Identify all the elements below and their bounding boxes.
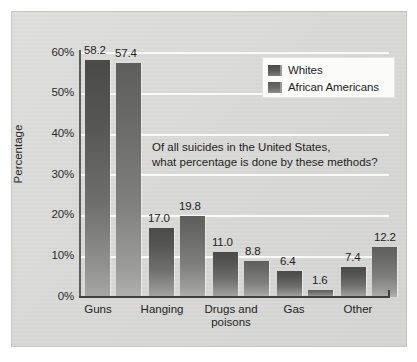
value-african-americans-hanging: 19.8 — [179, 200, 201, 212]
y-tick-50: 50% — [30, 86, 74, 98]
legend: Whites African Americans — [262, 57, 395, 98]
y-axis-tick-labels: 60% 50% 40% 30% 20% 10% 0% — [20, 0, 74, 362]
category-label-gas: Gas — [264, 303, 324, 316]
value-african-americans-drugs: 8.8 — [245, 245, 260, 257]
y-tick-20: 20% — [30, 208, 74, 220]
legend-label-whites: Whites — [288, 64, 323, 76]
legend-item-african-americans[interactable]: African Americans — [268, 79, 389, 95]
bar-african-americans-other[interactable] — [372, 247, 397, 297]
bar-whites-guns[interactable] — [85, 60, 110, 297]
value-african-americans-gas: 1.6 — [312, 274, 327, 286]
category-label-drugs-and-poisons: Drugs and poisons — [191, 303, 271, 329]
legend-swatch-african-americans — [268, 82, 282, 93]
x-axis-end-cap — [388, 290, 390, 297]
bar-whites-other[interactable] — [341, 267, 366, 297]
category-label-hanging: Hanging — [132, 303, 192, 316]
chart-annotation: Of all suicides in the United States, wh… — [152, 140, 392, 169]
legend-label-african-americans: African Americans — [288, 81, 379, 93]
legend-item-whites[interactable]: Whites — [268, 62, 389, 78]
x-axis-line — [79, 296, 390, 298]
category-label-guns: Guns — [68, 303, 128, 316]
bar-whites-gas[interactable] — [277, 271, 302, 297]
y-tick-40: 40% — [30, 127, 74, 139]
y-axis-label: Percentage — [12, 109, 24, 199]
value-whites-gas: 6.4 — [280, 255, 295, 267]
y-tick-30: 30% — [30, 168, 74, 180]
legend-swatch-whites — [268, 65, 282, 76]
chart-figure: 60% 50% 40% 30% 20% 10% 0% Percentage 58… — [0, 0, 417, 362]
bar-whites-drugs[interactable] — [213, 252, 238, 297]
y-tick-0: 0% — [30, 290, 74, 302]
bar-african-americans-hanging[interactable] — [180, 216, 205, 297]
value-whites-other: 7.4 — [345, 251, 360, 263]
bar-whites-hanging[interactable] — [149, 228, 174, 297]
y-tick-10: 10% — [30, 249, 74, 261]
y-tick-60: 60% — [30, 46, 74, 58]
value-whites-drugs: 11.0 — [212, 236, 233, 248]
value-african-americans-guns: 57.4 — [115, 47, 137, 59]
y-axis-line — [79, 50, 81, 298]
value-whites-guns: 58.2 — [84, 44, 106, 56]
value-african-americans-other: 12.2 — [374, 231, 396, 243]
annotation-line-2: what percentage is done by these methods… — [152, 155, 392, 170]
category-label-other: Other — [328, 303, 388, 316]
value-whites-hanging: 17.0 — [148, 212, 170, 224]
annotation-line-1: Of all suicides in the United States, — [152, 140, 392, 155]
bar-african-americans-guns[interactable] — [116, 63, 141, 297]
bar-african-americans-drugs[interactable] — [244, 261, 269, 297]
